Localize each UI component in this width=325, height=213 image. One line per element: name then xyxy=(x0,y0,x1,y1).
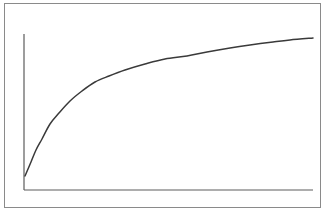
figure-root: Line chart showing a saturating curve th… xyxy=(0,0,325,213)
figure-background xyxy=(0,0,325,213)
chart-svg xyxy=(0,0,325,213)
